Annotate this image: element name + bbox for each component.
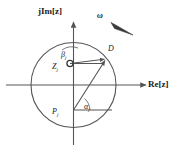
omega-rotation-arrow-icon [111,23,133,36]
omega-label: ω [97,12,103,20]
real-axis-label: Re[z] [148,80,168,89]
zero-label: Zj [52,63,58,71]
imaginary-axis-label: jIm[z] [38,7,62,16]
alpha-subscript: j [88,107,89,112]
z-plane-diagram: jIm[z] Re[z] ω D βj Zj Pj αj [0,0,179,157]
point-D-label: D [108,45,114,53]
zero-to-D-vector [70,59,105,63]
beta-angle-label: βj [61,51,66,59]
alpha-angle-label: αj [84,103,90,111]
pole-label: Pj [52,108,58,116]
zero-subscript: j [56,67,57,72]
